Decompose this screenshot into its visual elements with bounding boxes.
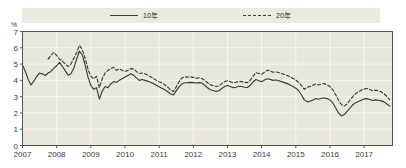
svg-text:2015: 2015: [287, 150, 305, 159]
svg-text:7: 7: [14, 28, 19, 37]
svg-text:2007: 2007: [14, 150, 32, 159]
svg-text:2009: 2009: [82, 150, 100, 159]
svg-text:1: 1: [14, 125, 19, 134]
svg-text:2010: 2010: [116, 150, 134, 159]
svg-text:2017: 2017: [355, 150, 373, 159]
y-axis-ticks: 01234567: [14, 28, 23, 151]
chart-figure: 10年 20年 % 01234567 200720082009201020112…: [0, 0, 406, 168]
svg-text:3: 3: [14, 93, 19, 102]
svg-text:2011: 2011: [151, 150, 169, 159]
svg-text:2: 2: [14, 109, 19, 118]
svg-text:6: 6: [14, 44, 19, 53]
svg-text:2008: 2008: [48, 150, 66, 159]
x-axis-ticks: 2007200820092010201120122013201420152016…: [14, 146, 374, 160]
svg-text:2014: 2014: [253, 150, 271, 159]
svg-text:2013: 2013: [219, 150, 237, 159]
svg-text:4: 4: [14, 76, 19, 85]
plot-area: 01234567 2007200820092010201120122013201…: [0, 0, 406, 168]
svg-text:2012: 2012: [184, 150, 202, 159]
svg-text:2016: 2016: [321, 150, 339, 159]
svg-text:5: 5: [14, 60, 19, 69]
